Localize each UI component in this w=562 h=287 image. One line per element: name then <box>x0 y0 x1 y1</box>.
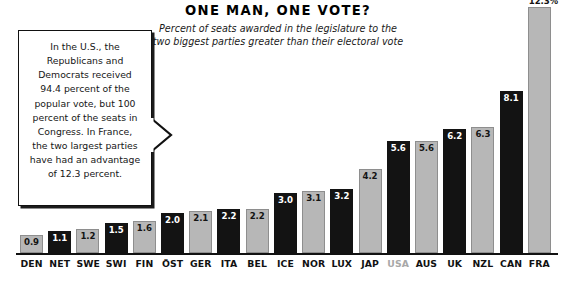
bar-ita: 2.2 <box>217 209 240 253</box>
axis-baseline <box>16 253 558 255</box>
bar-lux: 3.2 <box>330 189 353 253</box>
bar-value-label: 2.0 <box>162 216 183 225</box>
bar-value-label: 1.1 <box>49 234 70 243</box>
category-label-den: DEN <box>20 258 43 269</box>
category-label-jap: JAP <box>359 258 382 269</box>
chart-figure: ONE MAN, ONE VOTE? Percent of seats awar… <box>0 0 562 287</box>
category-label-bel: BEL <box>246 258 269 269</box>
bar-net: 1.1 <box>48 231 71 253</box>
category-label-öst: ÖST <box>161 258 184 269</box>
bar-column: 1.2 <box>76 229 99 253</box>
bar-column: 5.6 <box>415 141 438 253</box>
bar-swe: 1.2 <box>76 229 99 253</box>
bar-öst: 2.0 <box>161 213 184 253</box>
bar-value-label: 8.1 <box>501 94 522 103</box>
bar-column: 6.2 <box>443 129 466 253</box>
bar-jap: 4.2 <box>359 169 382 253</box>
bar-value-label: 6.2 <box>444 132 465 141</box>
annotation-callout: In the U.S., the Republicans and Democra… <box>18 30 152 206</box>
category-label-can: CAN <box>500 258 523 269</box>
bar-den: 0.9 <box>20 235 43 253</box>
bar-value-label: 3.2 <box>331 192 352 201</box>
bar-column: 3.1 <box>302 191 325 253</box>
category-label-ice: ICE <box>274 258 297 269</box>
bar-column: 12.3% <box>528 7 551 253</box>
category-label-aus: AUS <box>415 258 438 269</box>
bar-value-label: 6.3 <box>472 130 493 139</box>
bar-column: 3.2 <box>330 189 353 253</box>
category-label-ger: GER <box>189 258 212 269</box>
bar-swi: 1.5 <box>105 223 128 253</box>
bar-column: 0.9 <box>20 235 43 253</box>
bar-bel: 2.2 <box>246 209 269 253</box>
bar-value-label: 5.6 <box>416 144 437 153</box>
bar-fin: 1.6 <box>133 221 156 253</box>
bar-uk: 6.2 <box>443 129 466 253</box>
bar-value-label: 4.2 <box>360 172 381 181</box>
category-label-usa: USA <box>387 258 410 269</box>
category-label-uk: UK <box>443 258 466 269</box>
category-label-nor: NOR <box>302 258 325 269</box>
bar-can: 8.1 <box>500 91 523 253</box>
bar-column: 5.6 <box>387 141 410 253</box>
category-label-swe: SWE <box>76 258 99 269</box>
bar-value-label: 12.3% <box>529 0 550 6</box>
bar-value-label: 2.2 <box>218 212 239 221</box>
bar-value-label: 3.1 <box>303 194 324 203</box>
bar-column: 2.0 <box>161 213 184 253</box>
bar-column: 4.2 <box>359 169 382 253</box>
bar-column: 1.1 <box>48 231 71 253</box>
bar-column: 1.6 <box>133 221 156 253</box>
bar-nor: 3.1 <box>302 191 325 253</box>
bar-column: 2.1 <box>189 211 212 253</box>
bar-aus: 5.6 <box>415 141 438 253</box>
category-label-swi: SWI <box>105 258 128 269</box>
bar-column: 1.5 <box>105 223 128 253</box>
bar-column: 6.3 <box>471 127 494 253</box>
category-label-fin: FIN <box>133 258 156 269</box>
bar-value-label: 3.0 <box>275 196 296 205</box>
bar-nzl: 6.3 <box>471 127 494 253</box>
bar-value-label: 1.5 <box>106 226 127 235</box>
bar-column: 2.2 <box>217 209 240 253</box>
bar-value-label: 5.6 <box>388 144 409 153</box>
bar-value-label: 1.2 <box>77 232 98 241</box>
category-label-ita: ITA <box>217 258 240 269</box>
annotation-text: In the U.S., the Republicans and Democra… <box>19 31 151 181</box>
bar-value-label: 1.6 <box>134 224 155 233</box>
category-label-nzl: NZL <box>471 258 494 269</box>
bar-ger: 2.1 <box>189 211 212 253</box>
category-label-fra: FRA <box>528 258 551 269</box>
category-label-net: NET <box>48 258 71 269</box>
bar-fra: 12.3% <box>528 7 551 253</box>
bar-column: 3.0 <box>274 193 297 253</box>
bar-value-label: 2.1 <box>190 214 211 223</box>
bar-value-label: 0.9 <box>21 238 42 247</box>
bar-value-label: 2.2 <box>247 212 268 221</box>
bar-column: 8.1 <box>500 91 523 253</box>
callout-pointer-icon <box>151 118 173 152</box>
bar-ice: 3.0 <box>274 193 297 253</box>
bar-column: 2.2 <box>246 209 269 253</box>
bar-usa: 5.6 <box>387 141 410 253</box>
category-label-lux: LUX <box>330 258 353 269</box>
